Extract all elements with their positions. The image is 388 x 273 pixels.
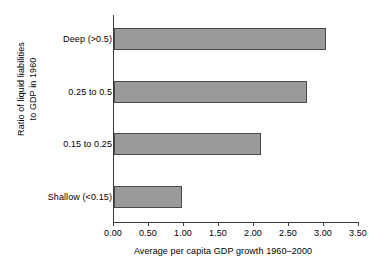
x-tick-7 [358,222,359,226]
x-tick-label-0: 0.00 [93,228,133,238]
x-tick-3 [218,222,219,226]
x-tick-label-2: 1.00 [163,228,203,238]
category-label-015-to-025: 0.15 to 0.25 [0,139,112,149]
plot-area [113,15,358,222]
x-tick-6 [323,222,324,226]
x-tick-label-5: 2.50 [268,228,308,238]
x-tick-label-3: 1.50 [198,228,238,238]
category-label-025-to-05: 0.25 to 0.5 [0,87,112,97]
x-axis-title: Average per capita GDP growth 1960–2000 [0,246,388,256]
x-axis-title-text: Average per capita GDP growth 1960–2000 [134,246,312,256]
x-tick-label-4: 2.00 [233,228,273,238]
x-tick-2 [183,222,184,226]
bar-deep [114,28,326,50]
bar-025-to-05 [114,81,307,103]
x-tick-label-6: 3.00 [303,228,343,238]
x-tick-0 [113,222,114,226]
x-axis-line [113,222,358,223]
x-tick-5 [288,222,289,226]
bar-shallow [114,186,182,208]
x-tick-1 [148,222,149,226]
bar-chart: Ratio of liquid liabilities to GDP in 19… [0,0,388,273]
x-tick-label-1: 0.50 [128,228,168,238]
category-label-deep: Deep (>0.5) [0,34,112,44]
x-tick-label-7: 3.50 [338,228,378,238]
category-label-shallow: Shallow (<0.15) [0,192,112,202]
bar-015-to-025 [114,133,261,155]
x-tick-4 [253,222,254,226]
